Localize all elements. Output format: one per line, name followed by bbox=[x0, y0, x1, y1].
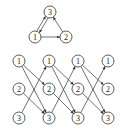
node-step1-1: 1 bbox=[13, 55, 25, 67]
node-step3-3: 3 bbox=[72, 112, 84, 124]
node-1: 1 bbox=[29, 31, 41, 43]
graph-diagram: 312123123123123 bbox=[0, 0, 127, 136]
node-step2-3: 3 bbox=[43, 112, 55, 124]
node-step1-3: 3 bbox=[13, 112, 25, 124]
node-label: 2 bbox=[17, 85, 21, 94]
node-label: 2 bbox=[64, 33, 68, 42]
node-label: 2 bbox=[47, 85, 51, 94]
edge-2-to-3 bbox=[53, 17, 63, 32]
node-step2-1: 1 bbox=[43, 55, 55, 67]
node-label: 1 bbox=[33, 33, 37, 42]
node-step4-1: 1 bbox=[102, 55, 114, 67]
node-label: 2 bbox=[106, 85, 110, 94]
node-label: 1 bbox=[17, 57, 21, 66]
node-label: 1 bbox=[47, 57, 51, 66]
node-2: 2 bbox=[60, 31, 72, 43]
nodes-layer: 312123123123123 bbox=[13, 6, 114, 124]
node-label: 3 bbox=[76, 114, 80, 123]
node-3: 3 bbox=[44, 6, 56, 18]
node-step3-1: 1 bbox=[72, 55, 84, 67]
node-step1-2: 2 bbox=[13, 83, 25, 95]
node-label: 3 bbox=[48, 8, 52, 17]
node-step3-2: 2 bbox=[72, 83, 84, 95]
node-step4-3: 3 bbox=[102, 112, 114, 124]
node-label: 3 bbox=[47, 114, 51, 123]
edge-3-to-1 bbox=[39, 18, 48, 33]
node-step4-2: 2 bbox=[102, 83, 114, 95]
node-label: 3 bbox=[17, 114, 21, 123]
node-label: 3 bbox=[106, 114, 110, 123]
node-step2-2: 2 bbox=[43, 83, 55, 95]
node-label: 1 bbox=[106, 57, 110, 66]
edge-1-to-3 bbox=[37, 16, 46, 31]
node-label: 1 bbox=[76, 57, 80, 66]
node-label: 2 bbox=[76, 85, 80, 94]
